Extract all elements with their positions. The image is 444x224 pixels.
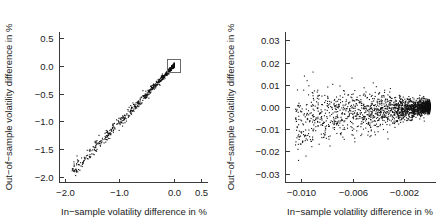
left-ytick-label: −1.0 bbox=[35, 116, 54, 127]
right-ytick-label: −0.02 bbox=[255, 146, 279, 157]
left-panel-tick-labels: −2.0−1.00.00.5−2.0−1.5−1.0−0.50.00.5 bbox=[35, 33, 208, 198]
left-panel-x-axis-title: In−sample volatility difference in % bbox=[61, 206, 207, 217]
left-ytick-label: −0.5 bbox=[35, 89, 54, 100]
right-panel-svg: −0.010−0.006−0.002−0.03−0.02−0.010.000.0… bbox=[222, 0, 444, 224]
right-ytick-label: 0.02 bbox=[261, 58, 280, 69]
right-ytick-label: 0.00 bbox=[261, 102, 280, 113]
right-panel-data-points bbox=[295, 72, 430, 161]
right-ytick-label: −0.01 bbox=[255, 124, 279, 135]
chart-panel-left: −2.0−1.00.00.5−2.0−1.5−1.0−0.50.00.5 In−… bbox=[0, 0, 222, 224]
right-ytick-label: −0.03 bbox=[255, 169, 279, 180]
left-panel-y-axis-title: Out−of−sample volatility difference in % bbox=[3, 23, 14, 190]
right-xtick-label: −0.010 bbox=[287, 187, 316, 198]
right-panel-y-axis-title: Out−of−sample volatility difference in % bbox=[225, 23, 236, 190]
right-xtick-label: −0.002 bbox=[390, 187, 419, 198]
left-xtick-label: −1.0 bbox=[110, 187, 129, 198]
left-xtick-label: 0.0 bbox=[168, 187, 181, 198]
right-panel-x-axis-title: In−sample volatility difference in % bbox=[287, 206, 433, 217]
right-xtick-label: −0.006 bbox=[339, 187, 368, 198]
left-panel-data-points bbox=[72, 62, 175, 176]
left-ytick-label: −2.0 bbox=[35, 172, 54, 183]
left-panel-svg: −2.0−1.00.00.5−2.0−1.5−1.0−0.50.00.5 In−… bbox=[0, 0, 222, 224]
left-ytick-label: −1.5 bbox=[35, 144, 54, 155]
left-ytick-label: 0.0 bbox=[40, 61, 53, 72]
left-xtick-label: 0.5 bbox=[195, 187, 208, 198]
left-ytick-label: 0.5 bbox=[40, 33, 53, 44]
left-xtick-label: −2.0 bbox=[56, 187, 75, 198]
figure-scatter-pair: −2.0−1.00.00.5−2.0−1.5−1.0−0.50.00.5 In−… bbox=[0, 0, 444, 224]
chart-panel-right: −0.010−0.006−0.002−0.03−0.02−0.010.000.0… bbox=[222, 0, 444, 224]
right-ytick-label: 0.01 bbox=[261, 80, 280, 91]
right-ytick-label: 0.03 bbox=[261, 35, 280, 46]
